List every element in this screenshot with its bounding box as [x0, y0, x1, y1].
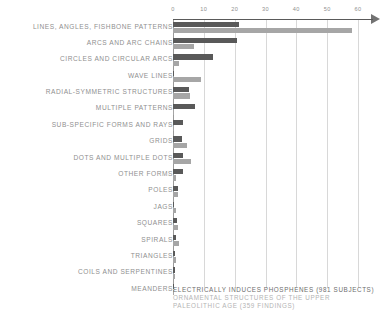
bar-group	[173, 104, 195, 115]
plot-area: LINES, ANGLES, FISHBONE PATTERNSARCS AND…	[0, 20, 392, 288]
bar-phosphenes	[173, 218, 177, 223]
bar-row: COILS AND SERPENTINES	[0, 266, 392, 282]
x-tick-label: 40	[293, 6, 300, 12]
category-label: WAVE LINES	[128, 72, 173, 79]
bar-row: SPIRALS	[0, 233, 392, 249]
bar-row: MULTIPLE PATTERNS	[0, 102, 392, 118]
bar-phosphenes	[173, 153, 183, 158]
horizontal-bar-chart: 0102030405060 LINES, ANGLES, FISHBONE PA…	[0, 0, 392, 317]
bar-ornamental	[173, 110, 174, 115]
bar-row: WAVE LINES	[0, 69, 392, 85]
bar-group	[173, 136, 187, 147]
bar-row: RADIAL-SYMMETRIC STRUCTURES	[0, 86, 392, 102]
category-label: JAGS	[154, 203, 173, 210]
category-label: MEANDERS	[131, 285, 173, 292]
bar-phosphenes	[173, 186, 178, 191]
bar-ornamental	[173, 175, 176, 180]
bar-ornamental	[173, 126, 174, 131]
bar-ornamental	[173, 274, 175, 279]
category-label: SUB-SPECIFIC FORMS AND RAYS	[52, 121, 173, 128]
bar-ornamental	[173, 77, 201, 82]
x-tick-label: 50	[324, 6, 331, 12]
bar-ornamental	[173, 159, 191, 164]
bar-ornamental	[173, 225, 178, 230]
category-label: TRIANGLES	[131, 252, 173, 259]
bar-group	[173, 87, 190, 98]
bar-ornamental	[173, 192, 178, 197]
bar-group	[173, 235, 179, 246]
bar-group	[173, 54, 213, 65]
bar-row: GRIDS	[0, 135, 392, 151]
category-label: SPIRALS	[141, 236, 173, 243]
category-label: OTHER FORMS	[118, 170, 173, 177]
bar-ornamental	[173, 208, 176, 213]
category-label: LINES, ANGLES, FISHBONE PATTERNS	[33, 23, 173, 30]
category-label: POLES	[148, 186, 173, 193]
x-axis-tick-labels: 0102030405060	[0, 0, 392, 18]
category-label: ARCS AND ARC CHAINS	[87, 39, 173, 46]
bar-ornamental	[173, 61, 179, 66]
bar-phosphenes	[173, 22, 239, 27]
x-tick-label: 20	[231, 6, 238, 12]
bar-row: TRIANGLES	[0, 249, 392, 265]
bar-row: DOTS AND MULTIPLE DOTS	[0, 151, 392, 167]
legend-entry-ornamental-line2: PALEOLITHIC AGE (359 FINDINGS)	[173, 302, 392, 310]
bar-phosphenes	[173, 169, 183, 174]
bar-phosphenes	[173, 87, 189, 92]
bar-rows: LINES, ANGLES, FISHBONE PATTERNSARCS AND…	[0, 20, 392, 299]
category-label: COILS AND SERPENTINES	[78, 268, 173, 275]
bar-phosphenes	[173, 235, 176, 240]
bar-group	[173, 153, 191, 164]
legend: ELECTRICALLY INDUCES PHOSPHENES (981 SUB…	[173, 286, 392, 310]
x-tick-label: 60	[354, 6, 361, 12]
bar-group	[173, 38, 237, 49]
bar-row: CIRCLES AND CIRCULAR ARCS	[0, 53, 392, 69]
bar-phosphenes	[173, 54, 213, 59]
bar-phosphenes	[173, 104, 195, 109]
legend-entry-phosphenes: ELECTRICALLY INDUCES PHOSPHENES (981 SUB…	[173, 286, 392, 294]
bar-row: LINES, ANGLES, FISHBONE PATTERNS	[0, 20, 392, 36]
bar-phosphenes	[173, 38, 237, 43]
bar-ornamental	[173, 93, 190, 98]
category-label: CIRCLES AND CIRCULAR ARCS	[60, 55, 173, 62]
bar-group	[173, 71, 201, 82]
bar-group	[173, 186, 178, 197]
bar-ornamental	[173, 257, 176, 262]
category-label: RADIAL-SYMMETRIC STRUCTURES	[46, 88, 173, 95]
bar-group	[173, 202, 176, 213]
bar-phosphenes	[173, 251, 175, 256]
bar-group	[173, 267, 175, 278]
bar-phosphenes	[173, 120, 183, 125]
bar-row: POLES	[0, 184, 392, 200]
bar-group	[173, 251, 176, 262]
bar-row: JAGS	[0, 200, 392, 216]
x-tick-label: 0	[171, 6, 175, 12]
bar-row: OTHER FORMS	[0, 168, 392, 184]
bar-row: SQUARES	[0, 217, 392, 233]
bar-ornamental	[173, 143, 187, 148]
x-tick-label: 10	[200, 6, 207, 12]
bar-row: ARCS AND ARC CHAINS	[0, 36, 392, 52]
bar-group	[173, 169, 183, 180]
bar-ornamental	[173, 28, 352, 33]
bar-group	[173, 22, 352, 33]
bar-group	[173, 218, 178, 229]
category-label: DOTS AND MULTIPLE DOTS	[73, 154, 173, 161]
x-tick-label: 30	[262, 6, 269, 12]
bar-ornamental	[173, 241, 179, 246]
category-label: SQUARES	[137, 219, 173, 226]
bar-phosphenes	[173, 71, 174, 76]
legend-entry-ornamental-line1: ORNAMENTAL STRUCTURES OF THE UPPER	[173, 294, 392, 302]
bar-row: SUB-SPECIFIC FORMS AND RAYS	[0, 118, 392, 134]
bar-phosphenes	[173, 136, 182, 141]
bar-phosphenes	[173, 202, 174, 207]
category-label: GRIDS	[149, 137, 173, 144]
bar-ornamental	[173, 44, 194, 49]
bar-group	[173, 120, 183, 131]
category-label: MULTIPLE PATTERNS	[96, 104, 173, 111]
bar-phosphenes	[173, 267, 175, 272]
